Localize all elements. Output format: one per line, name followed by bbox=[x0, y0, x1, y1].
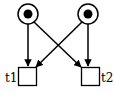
arc-p2-t1 bbox=[36, 22, 82, 67]
transition-t1 bbox=[19, 68, 37, 86]
place-p2 bbox=[78, 4, 98, 24]
petri-net-diagram: t1 t2 bbox=[0, 0, 114, 94]
arc-p1-t2 bbox=[34, 22, 81, 67]
transition-t2 bbox=[82, 68, 100, 86]
token-icon bbox=[24, 10, 33, 19]
transition-label-t2: t2 bbox=[101, 71, 113, 85]
place-p1 bbox=[18, 4, 38, 24]
token-icon bbox=[84, 10, 93, 19]
transition-label-t1: t1 bbox=[5, 71, 17, 85]
